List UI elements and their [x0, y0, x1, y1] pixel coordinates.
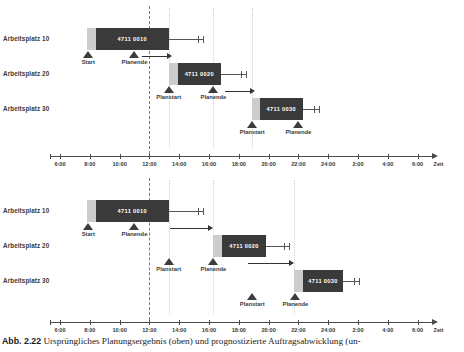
axis-tick-label: 24:00	[321, 161, 335, 167]
milestone-label: Planende	[122, 231, 148, 237]
row-label-2: Arbeitsplatz 20	[3, 70, 69, 78]
axis-tick-label: 6:00	[54, 161, 65, 167]
milestone-label: Start	[82, 59, 95, 65]
axis-title: Zeit	[434, 327, 444, 333]
time-axis	[50, 322, 432, 323]
transition-arrow-line	[225, 91, 251, 92]
axis-tick-label: 4:00	[382, 161, 393, 167]
axis-tick-label: 12:00	[142, 161, 156, 167]
milestone-label: Planende	[201, 266, 227, 272]
operation-id: 4711 0010	[118, 36, 147, 42]
buffer-cap-left	[314, 106, 315, 113]
milestone-triangle-icon	[208, 86, 218, 93]
time-axis-arrow-icon	[432, 319, 438, 325]
time-axis	[50, 156, 432, 157]
milestone-triangle-icon	[83, 223, 93, 230]
transition-arrow-head	[208, 225, 213, 231]
transition-arrow-head	[167, 53, 172, 59]
bar-group: 4711 0020	[213, 235, 265, 257]
axis-tick	[149, 320, 150, 325]
setup-segment	[87, 28, 96, 50]
work-segment[interactable]: 4711 0030	[303, 270, 343, 292]
axis-tick	[269, 154, 270, 159]
axis-tick	[388, 154, 389, 159]
axis-tick-label: 18:00	[232, 327, 246, 333]
setup-segment	[252, 98, 259, 120]
milestone-label: Planende	[122, 59, 148, 65]
buffer-line	[343, 281, 359, 282]
milestone-label: Planende	[201, 94, 227, 100]
axis-tick-label: 16:00	[202, 161, 216, 167]
axis-tick-label: 6:00	[412, 161, 423, 167]
row-label-3: Arbeitsplatz 30	[3, 105, 69, 113]
milestone-label: Planstart	[240, 129, 265, 135]
axis-tick	[209, 154, 210, 159]
axis-tick	[90, 154, 91, 159]
milestone-marker: Start	[83, 51, 93, 67]
row-label-2: Arbeitsplatz 20	[3, 242, 69, 250]
axis-tick-label: 16:00	[202, 327, 216, 333]
setup-segment	[294, 270, 303, 292]
milestone-triangle-icon	[208, 258, 218, 265]
axis-tick	[209, 320, 210, 325]
buffer-cap-left	[241, 71, 242, 78]
buffer-cap-left	[198, 208, 199, 215]
work-segment[interactable]: 4711 0010	[96, 200, 169, 222]
work-segment[interactable]: 4711 0020	[178, 63, 221, 85]
operation-id: 4711 0020	[229, 243, 258, 249]
axis-tick	[328, 320, 329, 325]
axis-tick-label: 10:00	[112, 327, 126, 333]
axis-tick-label: 12:00	[142, 327, 156, 333]
operation-id: 4711 0030	[308, 278, 337, 284]
transition-arrow-line	[142, 56, 168, 57]
milestone-marker: Planende	[129, 51, 139, 67]
axis-tick-label: 22:00	[291, 327, 305, 333]
axis-tick	[388, 320, 389, 325]
axis-left-cap	[50, 154, 51, 159]
axis-tick-label: 2:00	[352, 327, 363, 333]
milestone-marker: Planende	[129, 223, 139, 239]
work-segment[interactable]: 4711 0010	[96, 28, 169, 50]
axis-tick	[120, 154, 121, 159]
axis-tick-label: 24:00	[321, 327, 335, 333]
axis-tick	[269, 320, 270, 325]
buffer-cap-right	[319, 106, 320, 113]
milestone-marker: Planstart	[247, 121, 257, 137]
axis-left-cap	[50, 320, 51, 325]
axis-tick-label: 4:00	[382, 327, 393, 333]
axis-tick	[60, 154, 61, 159]
milestone-triangle-icon	[293, 121, 303, 128]
milestone-marker: Planstart	[247, 293, 257, 309]
work-segment[interactable]: 4711 0020	[222, 235, 265, 257]
axis-tick	[358, 320, 359, 325]
operation-id: 4711 0010	[118, 208, 147, 214]
milestone-marker: Planende	[208, 258, 218, 274]
buffer-cap-right	[359, 278, 360, 285]
axis-tick	[298, 320, 299, 325]
operation-id: 4711 0030	[267, 106, 296, 112]
milestone-label: Planende	[283, 301, 309, 307]
axis-tick	[239, 154, 240, 159]
milestone-label: Planstart	[156, 94, 181, 100]
axis-tick	[179, 154, 180, 159]
figure-caption-text: Ursprüngliches Planungsergebnis (oben) u…	[43, 336, 360, 346]
axis-tick-label: 22:00	[291, 161, 305, 167]
axis-tick	[358, 154, 359, 159]
transition-arrow-line	[170, 228, 209, 229]
milestone-triangle-icon	[164, 86, 174, 93]
row-label-1: Arbeitsplatz 10	[3, 35, 69, 43]
axis-tick	[90, 320, 91, 325]
figure-caption: Abb. 2.22 Ursprüngliches Planungsergebni…	[2, 336, 462, 347]
chart-panel-bottom: Arbeitsplatz 104711 0010StartPlanendeArb…	[0, 172, 464, 330]
milestone-triangle-icon	[247, 293, 257, 300]
time-axis-arrow-icon	[432, 153, 438, 159]
buffer-cap-right	[203, 208, 204, 215]
setup-segment	[213, 235, 222, 257]
gridline-dotted	[169, 180, 170, 314]
buffer-cap-right	[203, 36, 204, 43]
chart-panel-top: Arbeitsplatz 104711 0010StartPlanendeArb…	[0, 0, 464, 172]
milestone-triangle-icon	[129, 223, 139, 230]
milestone-marker: Planstart	[164, 258, 174, 274]
axis-tick	[239, 320, 240, 325]
work-segment[interactable]: 4711 0030	[260, 98, 303, 120]
